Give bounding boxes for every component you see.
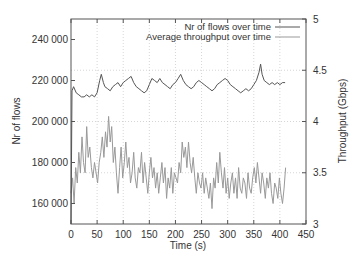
- x-tick-label: 150: [141, 229, 158, 240]
- legend: Nr of flows over time Average throughput…: [146, 21, 300, 42]
- y2-axis-label: Throughput (Gbps): [337, 79, 348, 164]
- x-axis-label: Time (s): [170, 240, 206, 251]
- chart: 050100150200250300350400450 160 000180 0…: [0, 0, 359, 263]
- y2-tick-label: 4: [313, 116, 319, 127]
- y-axis-left: 160 000180 000200 000220 000240 000: [32, 34, 75, 209]
- y-tick-label: 180 000: [32, 157, 69, 168]
- x-tick-label: 300: [219, 229, 236, 240]
- x-tick-label: 50: [92, 229, 104, 240]
- y-tick-label: 220 000: [32, 75, 69, 86]
- x-tick-label: 350: [245, 229, 262, 240]
- y2-tick-label: 3.5: [313, 167, 327, 178]
- y-tick-label: 240 000: [32, 34, 69, 45]
- x-tick-label: 0: [68, 229, 74, 240]
- y-tick-label: 200 000: [32, 116, 69, 127]
- grid: [71, 19, 306, 224]
- y-axis-label: Nr of flows: [11, 97, 22, 144]
- legend-label-throughput: Average throughput over time: [146, 31, 271, 42]
- x-tick-label: 450: [298, 229, 315, 240]
- series-throughput-line: [71, 116, 286, 208]
- x-tick-label: 400: [272, 229, 289, 240]
- y2-tick-label: 4.5: [313, 65, 327, 76]
- x-tick-label: 200: [167, 229, 184, 240]
- series-path: [71, 116, 286, 208]
- x-tick-label: 100: [115, 229, 132, 240]
- y-tick-label: 160 000: [32, 198, 69, 209]
- x-tick-label: 250: [193, 229, 210, 240]
- y2-tick-label: 5: [313, 14, 319, 25]
- y2-tick-label: 3: [313, 219, 319, 230]
- x-axis: 050100150200250300350400450: [68, 19, 315, 240]
